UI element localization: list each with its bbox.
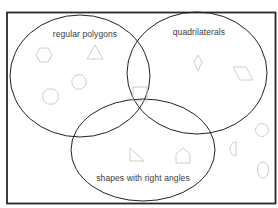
octagon-small-shape — [72, 75, 86, 89]
octagon-shape — [43, 89, 58, 104]
right-triangle-shape — [130, 148, 144, 161]
oval-shape — [258, 162, 269, 178]
set-label-quadrilaterals: quadrilaterals — [173, 27, 225, 37]
set-right-angles-circle — [71, 99, 215, 201]
house-pentagon-shape — [176, 148, 190, 163]
semicircle-shape — [230, 142, 236, 156]
circle-shape — [256, 124, 269, 137]
set-label-right-angles: shapes with right angles — [96, 173, 190, 183]
set-label-regular-polygons: regular polygons — [53, 29, 117, 39]
kite-shape — [194, 55, 202, 71]
parallelogram-shape — [233, 67, 253, 80]
triangle-shape — [87, 45, 103, 59]
hexagon-shape — [36, 48, 52, 62]
venn-diagram: regular polygons quadrilaterals shapes w… — [0, 0, 278, 208]
